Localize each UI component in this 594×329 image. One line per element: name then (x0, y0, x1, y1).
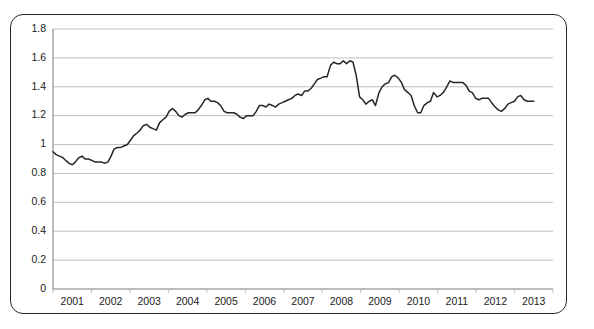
y-tick-label: 1.6 (31, 51, 46, 63)
x-tick-label: 2001 (61, 295, 85, 307)
x-tick-label: 2003 (137, 295, 161, 307)
y-tick-label: 1.4 (31, 80, 46, 92)
y-tick-label: 0.6 (31, 195, 46, 207)
gridlines-group (53, 29, 553, 289)
y-tick-label: 1.8 (31, 22, 46, 34)
series-line (53, 61, 534, 165)
y-tick-label: 0.4 (31, 224, 46, 236)
x-tick-label: 2013 (522, 295, 546, 307)
chart-container: 1.81.61.41.210.80.60.40.20 2001200220032… (0, 0, 594, 329)
line-chart-plot: 1.81.61.41.210.80.60.40.20 2001200220032… (0, 0, 594, 329)
x-tick-label: 2002 (99, 295, 123, 307)
x-tick-label: 2006 (253, 295, 277, 307)
x-tick-label: 2008 (330, 295, 354, 307)
x-tick-label: 2007 (291, 295, 315, 307)
x-axis-tick-labels: 2001200220032004200520062007200820092010… (61, 295, 546, 307)
y-axis-tick-labels: 1.81.61.41.210.80.60.40.20 (31, 22, 46, 294)
y-tick-label: 1.2 (31, 108, 46, 120)
y-tick-label: 0 (40, 282, 46, 294)
x-tick-label: 2009 (368, 295, 392, 307)
x-tick-label: 2011 (446, 295, 469, 307)
x-tick-label: 2004 (176, 295, 200, 307)
x-tick-label: 2005 (214, 295, 238, 307)
y-tick-label: 1 (40, 137, 46, 149)
x-tick-label: 2010 (407, 295, 431, 307)
x-axis-ticks-group (53, 289, 553, 293)
x-tick-label: 2012 (484, 295, 508, 307)
y-tick-label: 0.2 (31, 253, 46, 265)
y-tick-label: 0.8 (31, 166, 46, 178)
data-series-group (53, 61, 534, 165)
